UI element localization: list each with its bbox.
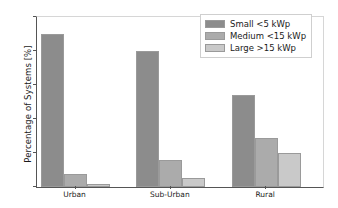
bar [232,95,255,187]
legend-label: Medium <15 kWp [230,31,306,41]
bar [255,138,278,187]
legend-item: Medium <15 kWp [205,30,306,42]
legend-swatch [205,32,225,40]
x-axis-tick-label: Sub-Urban [150,190,190,199]
bar [41,34,64,187]
bar-chart-figure: Percentage of Systems [%] 020406080100 U… [0,0,338,208]
bar [182,178,205,187]
legend-swatch [205,44,225,52]
legend-item: Small <5 kWp [205,18,306,30]
x-axis-tick-label: Rural [255,190,274,199]
bar [87,184,110,187]
legend-label: Small <5 kWp [230,19,290,29]
x-axis-tick-mark [75,186,76,189]
chart-legend: Small <5 kWpMedium <15 kWpLarge >15 kWp [200,14,312,58]
y-axis-title: Percentage of Systems [%] [23,19,33,189]
legend-label: Large >15 kWp [230,43,296,53]
legend-swatch [205,20,225,28]
legend-item: Large >15 kWp [205,42,306,54]
x-axis-tick-label: Urban [63,190,86,199]
bar [136,51,159,187]
bar [159,160,182,187]
x-axis-tick-mark [265,186,266,189]
bar [278,153,301,187]
x-axis-tick-mark [170,186,171,189]
bar [64,174,87,187]
